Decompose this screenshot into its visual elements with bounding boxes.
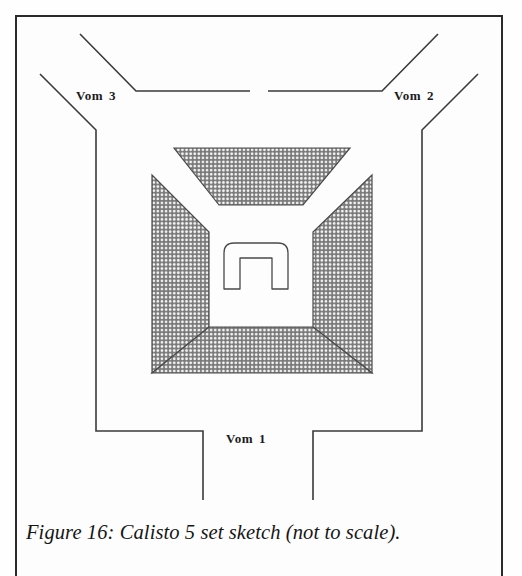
vom-2-label: Vom2: [394, 88, 434, 104]
seating-banks: [152, 148, 372, 373]
vom-2-label-number: 2: [427, 88, 434, 103]
vom-1-label-number: 1: [259, 431, 266, 446]
figure-caption: Figure 16: Calisto 5 set sketch (not to …: [26, 521, 496, 544]
vom-1-label-name: Vom: [226, 431, 253, 446]
vom-2-label-name: Vom: [394, 88, 421, 103]
figure-page: Vom3 Vom2 Vom1 Figure 16: Calisto 5 set …: [0, 0, 522, 576]
central-portal: [224, 243, 288, 289]
vom-3-label-name: Vom: [76, 88, 103, 103]
vom-3-label: Vom3: [76, 88, 116, 104]
vom-1-label: Vom1: [226, 431, 266, 447]
set-sketch-drawing: [0, 0, 522, 500]
bank-upstage: [174, 148, 350, 205]
vom-3-label-number: 3: [109, 88, 116, 103]
